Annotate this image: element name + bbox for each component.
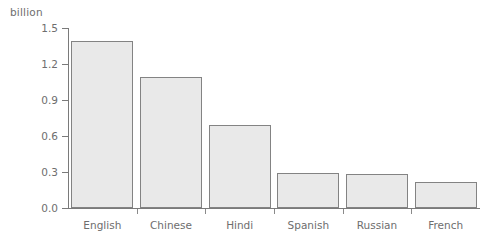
y-axis-tick (62, 172, 68, 173)
y-axis-tick-label: 1.2 (41, 58, 58, 70)
x-axis-tick (411, 209, 412, 214)
y-axis-line (68, 28, 69, 209)
y-axis-tick-label: 0.9 (41, 94, 58, 106)
y-axis-tick-label: 0.6 (41, 130, 58, 142)
y-axis-unit-label: billion (10, 6, 43, 18)
plot-area: 0.00.30.60.91.21.5 EnglishChineseHindiSp… (68, 28, 480, 208)
y-axis-tick (62, 64, 68, 65)
x-axis-tick (137, 209, 138, 214)
x-axis-tick (274, 209, 275, 214)
x-axis-tick (343, 209, 344, 214)
x-axis-category-label: English (83, 219, 121, 231)
x-axis-category-label: Chinese (150, 219, 192, 231)
bar (277, 173, 339, 208)
x-axis-category-label: Hindi (226, 219, 253, 231)
y-axis-tick-label: 1.5 (41, 22, 58, 34)
bar-chart: billion 0.00.30.60.91.21.5 EnglishChines… (0, 0, 482, 233)
bar (415, 182, 477, 208)
bar (346, 174, 408, 208)
bar (209, 125, 271, 208)
bar (71, 41, 133, 208)
y-axis-tick-label: 0.0 (41, 202, 58, 214)
x-axis-tick (205, 209, 206, 214)
y-axis-tick (62, 208, 68, 209)
y-axis-tick (62, 100, 68, 101)
x-axis-category-label: Russian (357, 219, 397, 231)
y-axis-tick (62, 28, 68, 29)
x-axis-category-label: Spanish (288, 219, 329, 231)
bar (140, 77, 202, 208)
y-axis-tick-label: 0.3 (41, 166, 58, 178)
x-axis-category-label: French (428, 219, 463, 231)
y-axis-tick (62, 136, 68, 137)
